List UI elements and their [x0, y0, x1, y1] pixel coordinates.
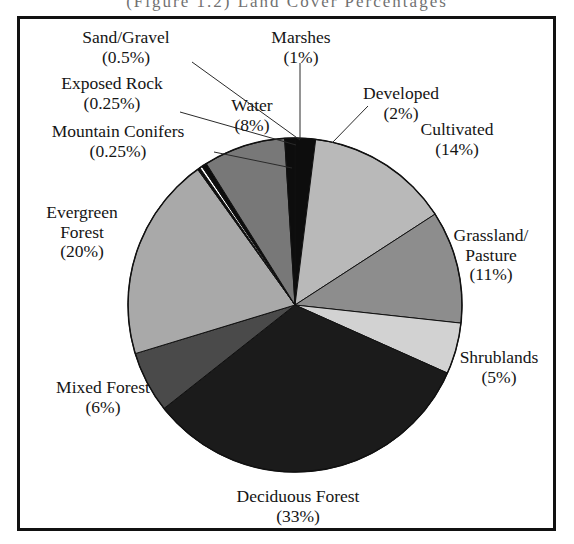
label-evergreen-forest-name2: Forest — [22, 223, 142, 243]
label-deciduous-forest: Deciduous Forest (33%) — [208, 487, 388, 526]
label-evergreen-forest: Evergreen Forest (20%) — [22, 203, 142, 262]
label-mixed-forest: Mixed Forest (6%) — [30, 378, 176, 417]
label-exposed-rock: Exposed Rock (0.25%) — [32, 74, 192, 113]
label-mountain-conifers-pct: (0.25%) — [18, 142, 218, 162]
label-grassland-pasture: Grassland/ Pasture (11%) — [428, 226, 554, 285]
label-mixed-forest-pct: (6%) — [30, 398, 176, 418]
label-mountain-conifers-name: Mountain Conifers — [52, 121, 185, 141]
label-grassland-pasture-pct: (11%) — [428, 265, 554, 285]
label-sand-gravel-pct: (0.5%) — [46, 48, 206, 68]
label-marshes: Marshes (1%) — [236, 28, 366, 67]
label-mountain-conifers: Mountain Conifers (0.25%) — [18, 122, 218, 161]
label-grassland-pasture-name2: Pasture — [428, 246, 554, 266]
label-cultivated-pct: (14%) — [392, 140, 522, 160]
label-shrublands-pct: (5%) — [440, 368, 558, 388]
label-sand-gravel: Sand/Gravel (0.5%) — [46, 28, 206, 67]
label-evergreen-forest-name: Evergreen — [46, 202, 118, 222]
label-exposed-rock-name: Exposed Rock — [61, 73, 163, 93]
label-evergreen-forest-pct: (20%) — [22, 242, 142, 262]
label-shrublands: Shrublands (5%) — [440, 348, 558, 387]
label-developed: Developed (2%) — [336, 84, 466, 123]
figure-page: (Figure 1.2) Land Cover Percentages Sand… — [0, 0, 574, 544]
label-exposed-rock-pct: (0.25%) — [32, 94, 192, 114]
label-water-pct: (8%) — [206, 116, 298, 136]
pie-slice-group — [128, 138, 462, 472]
label-deciduous-forest-pct: (33%) — [208, 507, 388, 527]
label-water-name: Water — [231, 95, 272, 115]
label-mixed-forest-name: Mixed Forest — [56, 377, 150, 397]
label-deciduous-forest-name: Deciduous Forest — [237, 486, 360, 506]
label-grassland-pasture-name: Grassland/ — [454, 225, 529, 245]
label-shrublands-name: Shrublands — [460, 347, 539, 367]
label-cultivated: Cultivated (14%) — [392, 120, 522, 159]
label-developed-name: Developed — [363, 83, 439, 103]
label-marshes-name: Marshes — [271, 27, 330, 47]
label-marshes-pct: (1%) — [236, 48, 366, 68]
label-sand-gravel-name: Sand/Gravel — [82, 27, 169, 47]
label-cultivated-name: Cultivated — [421, 119, 494, 139]
pie-chart: Sand/Gravel (0.5%) Marshes (1%) Exposed … — [0, 0, 574, 544]
label-water: Water (8%) — [206, 96, 298, 135]
